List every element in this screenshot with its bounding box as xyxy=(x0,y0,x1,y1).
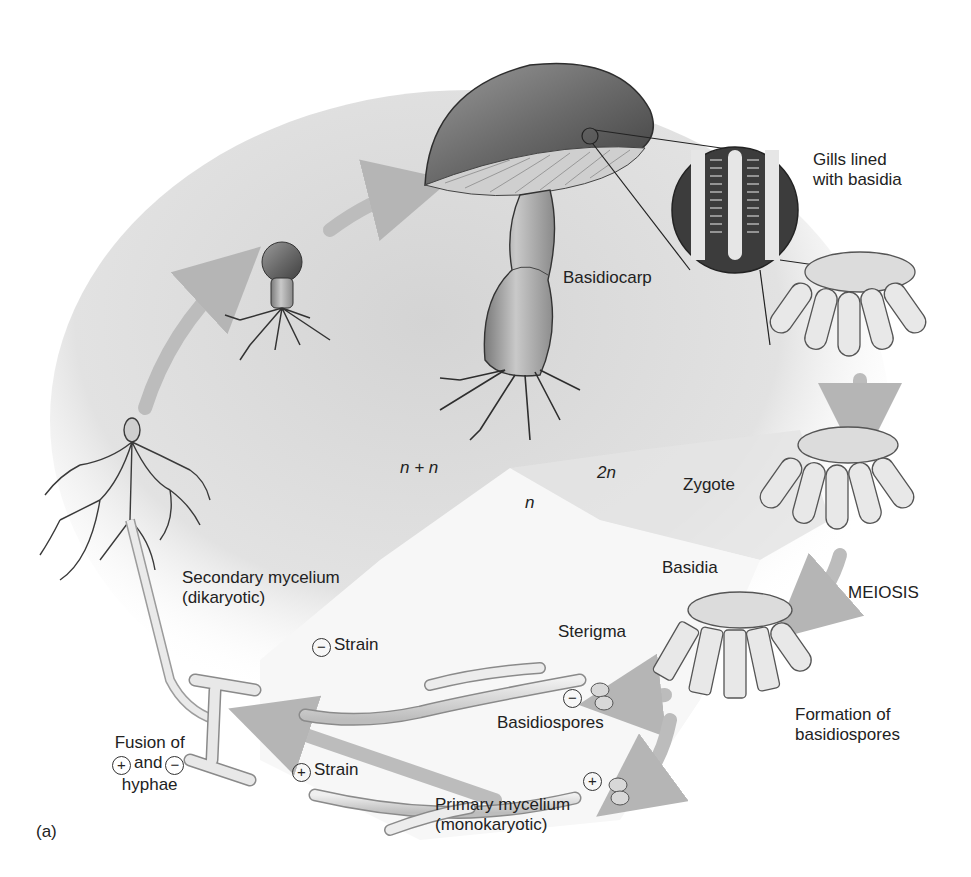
basidiocarp-label: Basidiocarp xyxy=(563,268,652,288)
plus-symbol-icon: + xyxy=(112,756,131,775)
primary-mycelium-line2: (monokaryotic) xyxy=(435,815,570,835)
secondary-mycelium-label: Secondary mycelium (dikaryotic) xyxy=(182,568,340,608)
panel-label: (a) xyxy=(36,822,57,842)
gills-label-line1: Gills lined xyxy=(813,150,902,170)
gills-inset xyxy=(672,147,798,273)
fusion-line1: Fusion of xyxy=(112,733,187,753)
minus-symbol-icon: − xyxy=(165,756,184,775)
plus-symbol-icon: + xyxy=(583,772,602,791)
formation-line1: Formation of xyxy=(795,705,900,725)
primary-mycelium-label: Primary mycelium (monokaryotic) xyxy=(435,795,570,835)
basidiospores-label: Basidiospores xyxy=(497,713,604,733)
zygote-label: Zygote xyxy=(683,475,735,495)
minus-spore-symbol: − xyxy=(563,686,585,708)
arrow-to-minus-spores xyxy=(620,695,665,700)
minus-symbol-icon: − xyxy=(312,638,331,657)
meiosis-label: MEIOSIS xyxy=(848,583,919,603)
secondary-mycelium-line1: Secondary mycelium xyxy=(182,568,340,588)
basidia-label: Basidia xyxy=(662,558,718,578)
formation-line2: basidiospores xyxy=(795,725,900,745)
sterigma-label: Sterigma xyxy=(558,622,626,642)
plus-strain-text: Strain xyxy=(314,760,358,779)
plus-spore-symbol: + xyxy=(583,769,605,791)
plus-symbol-icon: + xyxy=(292,763,311,782)
minus-symbol-icon: − xyxy=(563,689,582,708)
diploid-phase-label: 2n xyxy=(597,463,616,483)
primary-mycelium-line1: Primary mycelium xyxy=(435,795,570,815)
minus-strain-label: −Strain xyxy=(312,635,378,657)
gills-label: Gills lined with basidia xyxy=(813,150,902,190)
minus-strain-text: Strain xyxy=(334,635,378,654)
plus-strain-label: +Strain xyxy=(292,760,358,782)
fusion-line3: hyphae xyxy=(112,775,187,795)
dikaryotic-phase-label: n + n xyxy=(400,458,438,478)
fusion-line2: +and− xyxy=(112,753,187,775)
formation-label: Formation of basidiospores xyxy=(795,705,900,745)
secondary-mycelium-line2: (dikaryotic) xyxy=(182,588,340,608)
fusion-and-text: and xyxy=(134,753,162,772)
gills-label-line2: with basidia xyxy=(813,170,902,190)
haploid-phase-label: n xyxy=(525,493,534,513)
fusion-label: Fusion of +and− hyphae xyxy=(112,733,187,795)
